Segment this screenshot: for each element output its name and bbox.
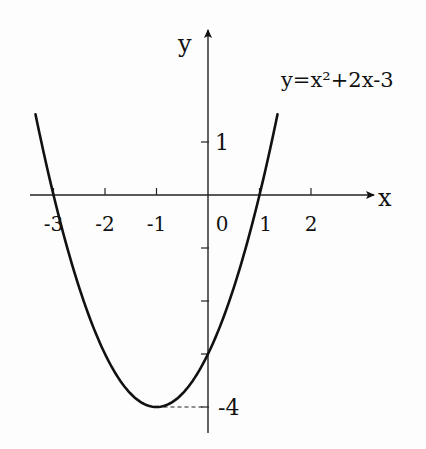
y-tick-label: -4 (218, 395, 239, 420)
x-tick-label: 1 (259, 212, 272, 236)
y-tick-label: 1 (215, 130, 229, 155)
parabola-curve (35, 114, 277, 407)
x-tick-label: 0 (216, 212, 229, 236)
chart-stage: -3-2-10121-4xyy=x²+2x-3 (0, 0, 426, 449)
x-axis-label: x (378, 184, 392, 212)
parabola-plot: -3-2-10121-4xyy=x²+2x-3 (0, 0, 426, 449)
x-tick-label: -3 (44, 212, 63, 236)
equation-label: y=x²+2x-3 (280, 68, 394, 92)
x-tick-label: 2 (305, 212, 318, 236)
parabola-path (35, 114, 277, 407)
x-tick-label: -1 (147, 212, 166, 236)
axis-labels: -3-2-10121-4xyy=x²+2x-3 (44, 30, 394, 420)
x-tick-label: -2 (95, 212, 114, 236)
y-axis-label: y (177, 30, 192, 58)
